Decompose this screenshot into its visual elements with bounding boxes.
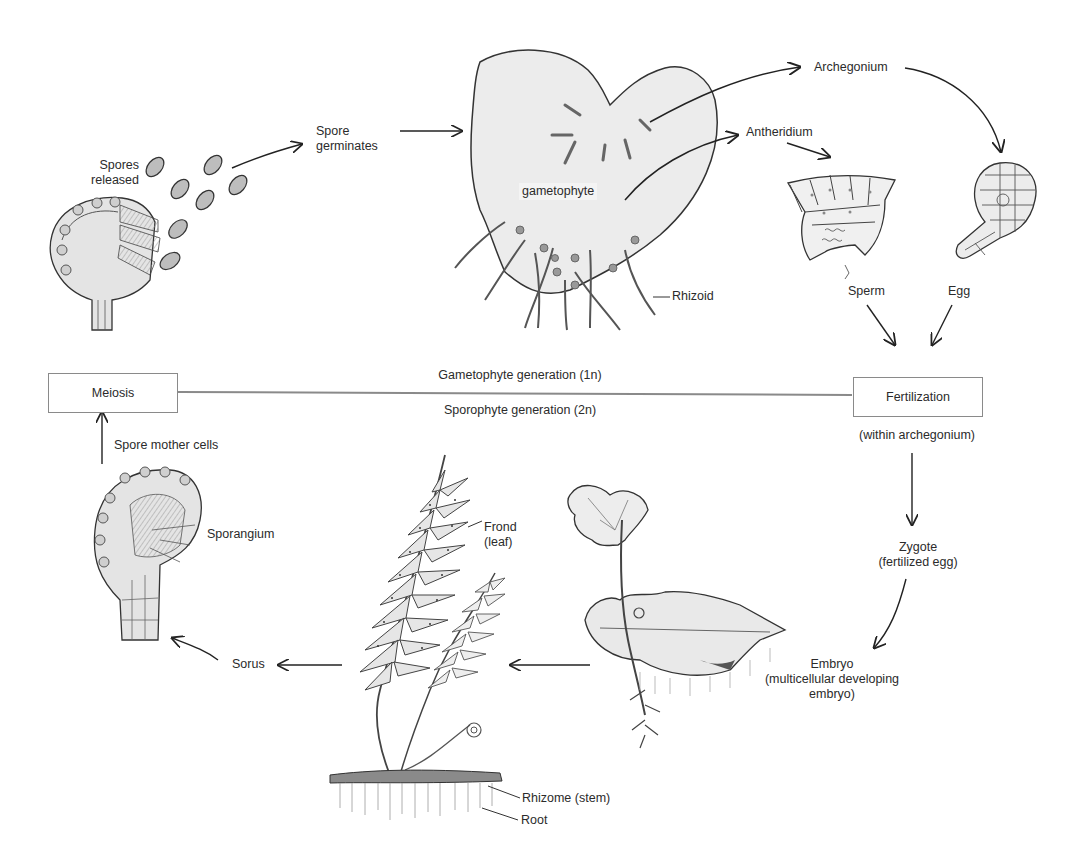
gametophyte-generation-label: Gametophyte generation (1n) (390, 368, 650, 383)
gametophyte-label: gametophyte (519, 183, 597, 200)
within-archegonium-label: (within archegonium) (852, 428, 982, 443)
arrow-egg-to-fertilization (932, 305, 952, 345)
rhizoid-label: Rhizoid (672, 289, 714, 304)
spores-released-label: Spores released (87, 158, 139, 188)
fertilization-box: Fertilization (853, 377, 983, 417)
arrow-zygote-to-embryo (874, 579, 906, 648)
embryo-label: Embryo (multicellular developing embryo) (752, 657, 912, 702)
arrow-spores-to-germinates (232, 144, 302, 168)
meiosis-box: Meiosis (48, 373, 178, 413)
antheridium-illustration (787, 143, 895, 279)
spore-mother-cells-label: Spore mother cells (114, 438, 218, 453)
sporangium-label: Sporangium (207, 527, 274, 542)
sorus-label: Sorus (232, 657, 265, 672)
young-sporophyte-illustration (568, 486, 785, 748)
fertilization-label: Fertilization (886, 390, 950, 404)
open-sporangium-illustration (50, 197, 160, 330)
antheridium-label: Antheridium (746, 125, 813, 140)
arrow-sperm-to-fertilization (867, 305, 895, 345)
sperm-label: Sperm (848, 284, 885, 299)
meiosis-label: Meiosis (92, 386, 134, 400)
root-label: Root (521, 813, 547, 828)
mature-fern-illustration (330, 455, 520, 820)
gametophyte-illustration (455, 50, 800, 330)
sporophyte-generation-label: Sporophyte generation (2n) (390, 403, 650, 418)
rhizome-label: Rhizome (stem) (522, 791, 610, 806)
closed-sporangium-illustration (94, 467, 201, 640)
archegonium-label: Archegonium (814, 60, 888, 75)
archegonium-illustration (905, 68, 1036, 258)
spore-germinates-label: Spore germinates (316, 124, 378, 154)
egg-label: Egg (948, 284, 970, 299)
generation-divider-line (178, 392, 852, 395)
zygote-label: Zygote (fertilized egg) (858, 540, 978, 570)
spores-illustration (143, 152, 251, 273)
frond-label: Frond (leaf) (484, 520, 517, 550)
arrow-sorus-to-sporangium (172, 638, 218, 660)
